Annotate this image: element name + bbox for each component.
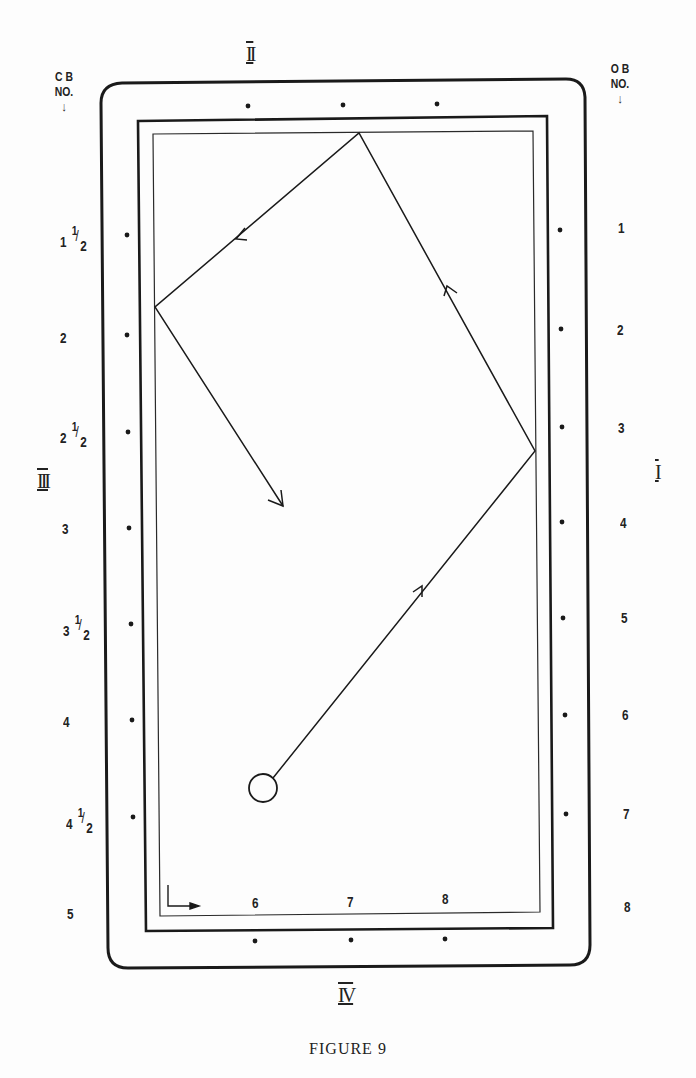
cue-ball: [249, 774, 277, 802]
right-number-5: 5: [621, 610, 628, 625]
left-number-2: 2: [60, 330, 67, 345]
diamonds-top: [246, 102, 440, 109]
table-drawing: [0, 0, 696, 1078]
right-number-8: 8: [624, 899, 631, 914]
table-outer-frame: [101, 79, 590, 968]
rail-label-top: II: [246, 44, 253, 64]
rail-label-bottom: IV: [338, 985, 353, 1005]
left-number-5: 5: [67, 906, 74, 921]
down-arrow-icon: ↓: [46, 100, 81, 115]
diamonds-bottom: [253, 937, 448, 944]
right-number-6: 6: [622, 707, 629, 722]
rail-label-right: I: [655, 462, 659, 482]
right-number-4: 4: [620, 515, 627, 530]
path-arrows: [236, 228, 457, 597]
arrow-segment-2: [444, 286, 457, 296]
rail-label-left: III: [37, 471, 48, 491]
table-cloth-line: [153, 131, 540, 916]
left-number-4: 4: [63, 714, 70, 729]
object-ball-number-header: O B NO. ↓: [602, 62, 637, 107]
figure-caption: FIGURE 9: [0, 1040, 696, 1058]
arrow-segment-1: [413, 586, 422, 597]
billiard-diagram: C B NO. ↓ O B NO. ↓ II I III IV 1 1/2 2 …: [0, 0, 696, 1078]
right-number-2: 2: [617, 322, 624, 337]
bottom-number-7: 7: [347, 894, 354, 909]
cue-ball-number-header: C B NO. ↓: [46, 70, 81, 115]
down-arrow-icon: ↓: [602, 92, 637, 107]
right-number-1: 1: [618, 220, 625, 235]
table-rail-frame: [138, 116, 553, 931]
right-number-7: 7: [623, 806, 630, 821]
diamonds-right: [558, 228, 569, 817]
bottom-number-8: 8: [442, 891, 449, 906]
diamonds-left: [125, 233, 136, 820]
bottom-number-6: 6: [252, 895, 259, 910]
corner-marker: [168, 885, 199, 909]
left-number-3: 3: [62, 521, 69, 536]
ball-path: [155, 133, 535, 778]
right-number-3: 3: [618, 420, 625, 435]
